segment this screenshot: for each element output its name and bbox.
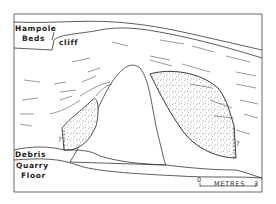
label-beds: Beds <box>22 34 45 43</box>
label-floor: Floor <box>21 171 46 180</box>
geological-section-diagram: Hampole Beds cliff Debris Quarry Floor ?… <box>0 0 276 204</box>
scale-end: 3 <box>254 180 259 188</box>
label-hampole: Hampole <box>15 24 57 33</box>
label-uncertain-left: ? <box>58 136 62 144</box>
scale-unit: METRES <box>214 180 245 188</box>
label-cliff: cliff <box>59 38 78 47</box>
scale-bar: 0 METRES 3 <box>197 176 259 188</box>
label-debris: Debris <box>15 150 46 159</box>
label-uncertain-right: ? <box>236 140 240 148</box>
scale-start: 0 <box>197 176 202 184</box>
label-quarry: Quarry <box>16 161 49 170</box>
